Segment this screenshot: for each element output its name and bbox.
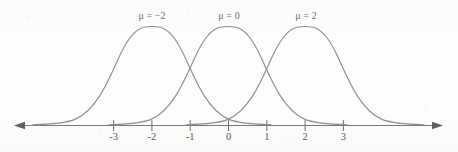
x-tick-label-0: 0 xyxy=(226,131,231,142)
x-tick-label-2: 2 xyxy=(302,131,307,142)
curve-label-mu-2: μ = 2 xyxy=(295,10,317,21)
normal-curves-figure: μ = −2 μ = 0 μ = 2 -3 -2 -1 0 1 2 3 xyxy=(0,0,458,152)
curve-label-mu-minus-2: μ = −2 xyxy=(138,10,165,21)
curve-label-mu-0: μ = 0 xyxy=(218,10,240,21)
x-tick-label-1: 1 xyxy=(264,131,269,142)
arrow-left-icon xyxy=(14,122,25,129)
x-tick-label-minus-2: -2 xyxy=(148,131,157,142)
x-tick-label-minus-1: -1 xyxy=(186,131,195,142)
arrow-right-icon xyxy=(432,122,443,129)
plot-canvas xyxy=(0,0,458,152)
distribution-curves xyxy=(33,27,424,125)
x-tick-label-minus-3: -3 xyxy=(109,131,118,142)
x-tick-label-3: 3 xyxy=(341,131,346,142)
curve-mu-minus-2 xyxy=(33,27,271,125)
curve-mu-0 xyxy=(109,27,347,125)
curve-mu-2 xyxy=(186,27,424,125)
